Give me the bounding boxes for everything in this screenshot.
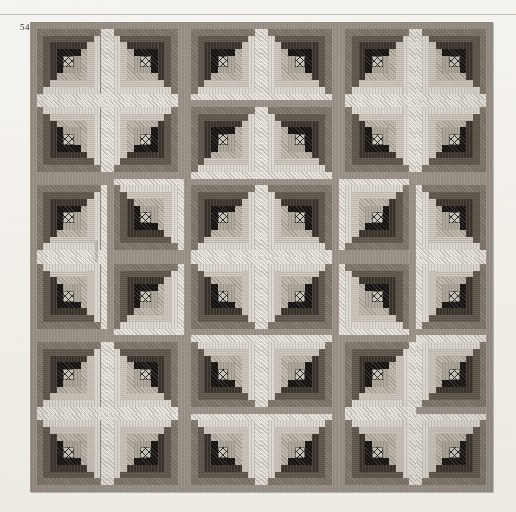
quilt-block	[107, 22, 184, 100]
log-strip	[268, 29, 332, 36]
log-strip	[114, 243, 178, 250]
log-strip	[325, 185, 332, 250]
log-strip	[184, 414, 191, 492]
log-strip	[37, 420, 101, 427]
log-strip	[204, 356, 211, 394]
log-strip	[325, 29, 332, 94]
log-strip	[416, 414, 423, 492]
log-strip	[37, 243, 101, 250]
log-strip	[37, 264, 101, 271]
log-strip	[305, 284, 312, 308]
log-strip	[403, 185, 410, 250]
log-strip	[30, 179, 37, 257]
log-strip	[57, 284, 64, 308]
log-strip	[409, 335, 416, 413]
centre-lattice-square	[372, 447, 383, 458]
log-strip	[57, 441, 64, 465]
log-strip	[486, 414, 493, 492]
log-strip	[268, 264, 275, 329]
log-strip	[198, 192, 205, 243]
log-strip	[332, 414, 339, 492]
log-strip	[30, 100, 37, 178]
centre-lattice-square	[218, 134, 229, 145]
log-strip	[158, 42, 165, 80]
log-strip	[50, 356, 57, 394]
log-strip	[409, 414, 416, 492]
log-strip	[268, 400, 332, 407]
log-strip	[184, 94, 261, 101]
log-strip	[345, 342, 352, 407]
log-strip	[107, 22, 184, 29]
log-strip	[204, 42, 211, 80]
log-strip	[396, 271, 403, 322]
log-strip	[198, 36, 249, 43]
log-strip	[345, 264, 409, 271]
log-strip	[101, 414, 108, 492]
log-strip	[480, 29, 487, 94]
log-strip	[268, 107, 332, 114]
log-strip	[164, 349, 171, 400]
log-strip	[473, 192, 480, 243]
log-strip	[114, 420, 121, 485]
log-strip	[43, 192, 50, 243]
quilt-block	[30, 257, 107, 335]
log-strip	[312, 434, 319, 472]
log-strip	[275, 114, 282, 165]
log-strip	[261, 414, 268, 492]
log-strip	[178, 335, 185, 413]
log-strip	[416, 22, 423, 100]
log-strip	[37, 185, 101, 192]
quilt-block	[184, 22, 261, 100]
log-strip	[107, 250, 184, 257]
log-strip	[171, 107, 178, 172]
log-strip	[261, 257, 338, 264]
log-strip	[275, 36, 282, 87]
log-strip	[365, 441, 372, 465]
log-strip	[107, 329, 184, 336]
log-strip	[339, 179, 346, 257]
centre-lattice-square	[63, 56, 74, 67]
log-strip	[403, 107, 410, 172]
log-strip	[345, 185, 352, 250]
log-strip	[319, 427, 326, 478]
log-strip	[57, 127, 64, 151]
quilt-block	[261, 179, 338, 257]
log-strip	[57, 362, 64, 386]
log-strip	[486, 335, 493, 413]
log-strip	[114, 342, 121, 407]
log-strip	[268, 478, 332, 485]
log-strip	[191, 264, 255, 271]
log-strip	[339, 257, 416, 264]
log-strip	[352, 36, 359, 87]
log-strip	[158, 434, 165, 472]
log-strip	[184, 335, 191, 413]
log-strip	[211, 49, 218, 73]
log-strip	[480, 264, 487, 329]
log-strip	[204, 121, 211, 159]
log-strip	[43, 158, 94, 165]
log-strip	[134, 284, 141, 308]
log-strip	[107, 179, 184, 186]
log-strip	[178, 257, 185, 335]
log-strip	[339, 179, 416, 186]
log-strip	[204, 434, 211, 472]
log-strip	[261, 257, 268, 335]
log-strip	[345, 420, 409, 427]
log-strip	[345, 29, 409, 36]
log-strip	[261, 407, 338, 414]
log-strip	[325, 107, 332, 172]
log-strip	[422, 243, 486, 250]
log-strip	[339, 250, 416, 257]
log-strip	[184, 179, 261, 186]
log-strip	[30, 329, 107, 336]
log-strip	[184, 100, 191, 178]
log-strip	[480, 107, 487, 172]
log-strip	[352, 158, 403, 165]
quilt-block	[339, 100, 416, 178]
log-strip	[30, 414, 37, 492]
log-strip	[198, 472, 249, 479]
log-strip	[422, 29, 429, 94]
log-strip	[107, 335, 184, 342]
log-strip	[204, 199, 211, 237]
log-strip	[107, 100, 114, 178]
